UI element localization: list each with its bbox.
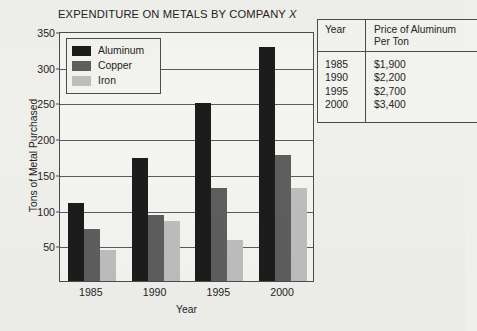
y-tick-label-150: 150 xyxy=(37,170,55,182)
legend-swatch-copper-icon xyxy=(72,61,91,71)
price-table-year-column: 1985 1990 1995 2000 xyxy=(318,52,366,122)
bar-aluminum-1985 xyxy=(68,203,84,281)
legend-label-iron: Iron xyxy=(98,75,116,86)
x-tick-label-1985: 1985 xyxy=(79,286,103,298)
chart-legend: Aluminum Copper Iron xyxy=(66,38,161,94)
y-tick-mark-200 xyxy=(56,140,60,141)
price-table-header-year-cell: Year xyxy=(318,20,366,51)
y-tick-mark-350 xyxy=(56,33,60,34)
bar-aluminum-1990 xyxy=(132,158,148,281)
chart-title: EXPENDITURE ON METALS BY COMPANY X xyxy=(58,8,297,20)
bar-copper-1985 xyxy=(84,229,100,281)
x-tick-label-1990: 1990 xyxy=(143,286,167,298)
bar-copper-1995 xyxy=(211,188,227,281)
bar-aluminum-2000 xyxy=(259,47,275,281)
price-table-header-year: Year xyxy=(325,24,365,36)
bar-copper-2000 xyxy=(275,155,291,281)
price-table-header-price-cell: Price of Aluminum Per Ton xyxy=(366,20,477,51)
price-table-header-price-line1: Price of Aluminum xyxy=(374,24,477,36)
bar-iron-1985 xyxy=(100,250,116,281)
y-tick-mark-250 xyxy=(56,104,60,105)
y-tick-label-350: 350 xyxy=(37,27,55,39)
legend-swatch-iron-icon xyxy=(72,76,91,86)
price-table-body: 1985 1990 1995 2000 $1,900 $2,200 $2,700… xyxy=(318,52,477,122)
price-table-price-2000: $3,400 xyxy=(374,98,477,111)
legend-item-aluminum: Aluminum xyxy=(72,43,155,58)
bar-group-2000 xyxy=(259,33,307,281)
bar-aluminum-1995 xyxy=(195,103,211,281)
price-table-year-1985: 1985 xyxy=(325,58,365,71)
legend-item-copper: Copper xyxy=(72,58,155,73)
price-table-price-1985: $1,900 xyxy=(374,58,477,71)
y-tick-label-300: 300 xyxy=(37,63,55,75)
legend-label-aluminum: Aluminum xyxy=(98,45,144,56)
price-table-price-column: $1,900 $2,200 $2,700 $3,400 xyxy=(366,52,477,122)
x-axis-label: Year xyxy=(59,304,314,315)
bar-group-1995 xyxy=(195,33,243,281)
y-tick-mark-150 xyxy=(56,175,60,176)
price-table-header-row: Year Price of Aluminum Per Ton xyxy=(318,20,477,52)
price-table: Year Price of Aluminum Per Ton 1985 1990… xyxy=(317,19,477,123)
x-tick-label-2000: 2000 xyxy=(270,286,294,298)
bar-iron-1995 xyxy=(227,240,243,281)
y-tick-mark-300 xyxy=(56,68,60,69)
bar-iron-2000 xyxy=(291,188,307,281)
legend-label-copper: Copper xyxy=(98,60,132,71)
y-tick-mark-50 xyxy=(56,247,60,248)
y-tick-label-100: 100 xyxy=(37,206,55,218)
x-tick-label-1995: 1995 xyxy=(207,286,231,298)
y-tick-label-250: 250 xyxy=(37,98,55,110)
legend-item-iron: Iron xyxy=(72,73,155,88)
price-table-header-price-line2: Per Ton xyxy=(374,36,477,48)
y-tick-label-200: 200 xyxy=(37,134,55,146)
price-table-year-1990: 1990 xyxy=(325,71,365,84)
y-tick-mark-100 xyxy=(56,211,60,212)
y-tick-label-50: 50 xyxy=(43,241,55,253)
chart-title-text: EXPENDITURE ON METALS BY COMPANY xyxy=(58,8,289,20)
price-table-year-1995: 1995 xyxy=(325,85,365,98)
bar-iron-1990 xyxy=(164,221,180,281)
price-table-price-1995: $2,700 xyxy=(374,85,477,98)
price-table-price-1990: $2,200 xyxy=(374,71,477,84)
chart-title-company-letter: X xyxy=(289,8,297,20)
bar-copper-1990 xyxy=(148,215,164,281)
price-table-year-2000: 2000 xyxy=(325,98,365,111)
legend-swatch-aluminum-icon xyxy=(72,46,91,56)
